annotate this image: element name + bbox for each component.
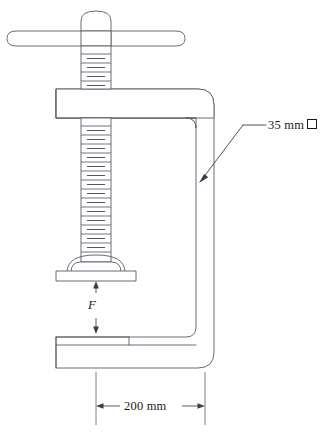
- screw-dome-head: [81, 11, 111, 31]
- clamping-force-label: F: [88, 297, 96, 313]
- clamp-figure: 35 mm 200 mm F: [0, 0, 335, 434]
- clamp-drawing-svg: [0, 0, 335, 434]
- c-frame: [56, 89, 214, 368]
- handle-bar-right-arm: [111, 31, 185, 46]
- upper-jaw-block: [56, 89, 214, 128]
- force-arrow-head-up: [93, 281, 99, 289]
- force-arrow-head-down: [93, 327, 99, 335]
- span-arrow-head-left: [96, 403, 104, 408]
- cross-section-callout-value: 35 mm: [268, 118, 304, 132]
- span-dimension-label: 200 mm: [124, 399, 167, 414]
- frame-outline: [56, 89, 214, 368]
- swivel-pad-plate: [56, 271, 136, 281]
- screw-shaft: [81, 11, 111, 262]
- square-section-icon: [307, 119, 317, 129]
- span-arrow-head-right: [198, 403, 206, 408]
- screw-through-handle: [81, 31, 111, 46]
- swivel-dome-fill: [68, 262, 124, 272]
- upper-jaw: [56, 89, 214, 128]
- cross-section-callout-label: 35 mm: [268, 118, 317, 133]
